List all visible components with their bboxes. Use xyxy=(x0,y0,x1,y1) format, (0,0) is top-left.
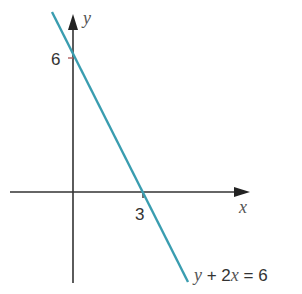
y-axis-arrow-icon xyxy=(68,14,78,30)
y-intercept-label: 6 xyxy=(51,50,60,69)
x-axis-label: x xyxy=(238,197,247,217)
graph: y x 6 3 y + 2x = 6 xyxy=(0,0,302,294)
equation-label: y + 2x = 6 xyxy=(192,265,268,285)
x-intercept-label: 3 xyxy=(135,205,144,224)
y-axis-label: y xyxy=(81,8,91,28)
x-axis-arrow-icon xyxy=(234,187,250,197)
